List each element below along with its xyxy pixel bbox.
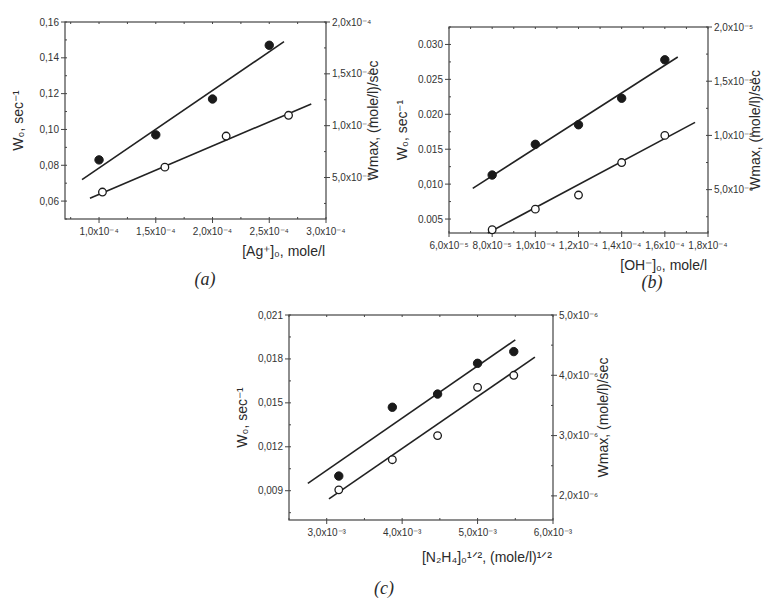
- x-tick-label: 6,0x10⁻³: [534, 527, 573, 538]
- y-left-tick-label: 0.005: [418, 214, 443, 225]
- data-point-open: [618, 159, 626, 167]
- data-point-filled: [574, 121, 582, 129]
- fit-line: [308, 340, 515, 484]
- plot-frame: [289, 315, 553, 520]
- y-right-tick-label: 2,0x10⁻⁴: [332, 17, 371, 28]
- x-tick-label: 3,0x10⁻⁴: [306, 226, 345, 237]
- y-left-tick-label: 0,021: [258, 310, 283, 321]
- data-point-open: [510, 371, 518, 379]
- x-tick-label: 2,0x10⁻⁴: [193, 226, 232, 237]
- y-left-tick-label: 0,009: [258, 485, 283, 496]
- x-tick-label: 1,5x10⁻⁴: [136, 226, 175, 237]
- y-right-tick-label: 5,0x10⁻⁶: [559, 310, 598, 321]
- x-tick-label: 1,0x10⁻⁴: [516, 240, 555, 251]
- series-open: [488, 122, 695, 233]
- x-tick-label: 8,0x10⁻⁵: [473, 240, 512, 251]
- y-left-tick-label: 0,10: [40, 124, 60, 135]
- y-left-tick-label: 0,12: [40, 88, 60, 99]
- data-point-filled: [208, 95, 216, 103]
- y-left-tick-label: 0,018: [258, 353, 283, 364]
- data-point-filled: [265, 41, 273, 49]
- y-left-tick-label: 0,14: [40, 52, 60, 63]
- y-right-axis-title: Wmax, (mole/l)/sec: [595, 358, 611, 478]
- data-point-filled: [473, 359, 481, 367]
- data-point-open: [161, 163, 169, 171]
- data-point-open: [335, 486, 343, 494]
- y-left-tick-label: 0.025: [418, 74, 443, 85]
- x-tick-label: 1,0x10⁻⁴: [79, 226, 118, 237]
- x-tick-label: 5,0x10⁻³: [458, 527, 497, 538]
- x-tick-label: 3,0x10⁻³: [308, 527, 347, 538]
- panel-label: (b): [642, 272, 663, 293]
- y-right-tick-label: 2,0x10⁻⁶: [559, 490, 598, 501]
- y-left-tick-label: 0,012: [258, 441, 283, 452]
- data-point-open: [285, 112, 293, 120]
- data-point-filled: [531, 140, 539, 148]
- x-tick-label: 1,8x10⁻⁴: [688, 240, 727, 251]
- data-point-open: [99, 188, 107, 196]
- x-tick-label: 6,0x10⁻⁵: [429, 240, 468, 251]
- x-tick-label: 1,4x10⁻⁴: [602, 240, 641, 251]
- data-point-filled: [95, 156, 103, 164]
- y-right-axis-title: Wmax, (mole/l)/sec: [747, 70, 763, 190]
- y-left-axis-title: W₀, sec⁻¹: [234, 387, 250, 448]
- data-point-filled: [661, 56, 669, 64]
- y-right-tick-label: 2,0x10⁻⁵: [714, 22, 753, 33]
- x-tick-label: 1,6x10⁻⁴: [645, 240, 684, 251]
- y-left-tick-label: 0,08: [40, 160, 60, 171]
- chart-a: 1,0x10⁻⁴1,5x10⁻⁴2,0x10⁻⁴2,5x10⁻⁴3,0x10⁻⁴…: [10, 17, 381, 291]
- data-point-open: [434, 432, 442, 440]
- x-axis-title: [OH⁻]₀, mole/l: [620, 257, 707, 273]
- data-point-open: [532, 205, 540, 213]
- data-point-open: [661, 132, 669, 140]
- data-point-filled: [510, 347, 518, 355]
- y-left-tick-label: 0,06: [40, 196, 60, 207]
- y-left-tick-label: 0,010: [418, 179, 443, 190]
- data-point-filled: [152, 131, 160, 139]
- x-tick-label: 4,0x10⁻³: [383, 527, 422, 538]
- data-point-open: [222, 132, 230, 140]
- y-left-axis-title: W₀, sec⁻¹: [394, 100, 410, 161]
- y-left-tick-label: 0,16: [40, 17, 60, 28]
- plot-frame: [449, 27, 708, 233]
- series-open: [329, 357, 535, 499]
- y-right-tick-label: 3,0x10⁻⁶: [559, 430, 598, 441]
- figure: 1,0x10⁻⁴1,5x10⁻⁴2,0x10⁻⁴2,5x10⁻⁴3,0x10⁻⁴…: [0, 0, 779, 608]
- data-point-open: [488, 226, 496, 234]
- y-left-axis-title: W₀, sec⁻¹: [10, 90, 26, 151]
- series-filled: [308, 340, 518, 484]
- y-left-tick-label: 0.030: [418, 39, 443, 50]
- data-point-filled: [335, 472, 343, 480]
- x-tick-label: 1,2x10⁻⁴: [559, 240, 598, 251]
- x-tick-label: 2,5x10⁻⁴: [250, 226, 289, 237]
- panel-label: (c): [374, 578, 394, 599]
- y-left-tick-label: 0.015: [418, 144, 443, 155]
- x-axis-title: [N₂H₄]₀¹ᐟ², (mole/l)¹ᐟ²: [422, 549, 552, 565]
- fit-line: [329, 357, 535, 499]
- data-point-open: [575, 191, 583, 199]
- data-point-open: [474, 384, 482, 392]
- data-point-filled: [617, 94, 625, 102]
- y-right-tick-label: 4,0x10⁻⁶: [559, 370, 598, 381]
- data-point-filled: [433, 390, 441, 398]
- x-axis-title: [Ag⁺]₀, mole/l: [242, 243, 325, 259]
- panel-label: (a): [195, 269, 216, 290]
- chart-b: 6,0x10⁻⁵8,0x10⁻⁵1,0x10⁻⁴1,2x10⁻⁴1,4x10⁻⁴…: [394, 22, 763, 294]
- chart-c: 3,0x10⁻³4,0x10⁻³5,0x10⁻³6,0x10⁻³0,0090,0…: [234, 310, 611, 600]
- series-filled: [473, 56, 678, 189]
- data-point-filled: [488, 171, 496, 179]
- y-left-tick-label: 0.020: [418, 109, 443, 120]
- y-right-axis-title: Wmax, (mole/l)/sec: [365, 61, 381, 181]
- data-point-filled: [388, 403, 396, 411]
- data-point-open: [389, 456, 397, 464]
- y-left-tick-label: 0,015: [258, 397, 283, 408]
